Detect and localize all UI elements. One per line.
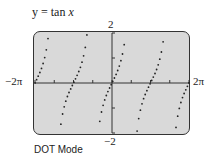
data-point <box>180 102 182 104</box>
data-point <box>118 65 120 67</box>
data-point <box>76 74 78 76</box>
data-point <box>187 85 189 87</box>
data-point <box>144 94 146 96</box>
data-point <box>44 57 46 59</box>
data-point <box>185 89 187 91</box>
data-point <box>34 82 36 84</box>
data-point <box>83 55 85 57</box>
data-point <box>188 82 190 84</box>
data-point <box>140 109 142 111</box>
data-point <box>47 38 49 40</box>
data-point <box>105 95 107 97</box>
data-point <box>159 58 161 60</box>
data-point <box>65 100 67 102</box>
data-point <box>41 68 43 70</box>
data-point <box>107 91 109 93</box>
data-point <box>39 72 41 74</box>
data-point <box>60 123 62 125</box>
data-point <box>45 49 47 51</box>
data-point <box>37 75 39 77</box>
data-point <box>138 118 140 120</box>
data-point <box>67 96 69 98</box>
data-point <box>86 34 88 36</box>
data-point <box>68 92 70 94</box>
data-point <box>73 81 75 83</box>
data-point <box>71 85 73 87</box>
data-point <box>110 84 112 86</box>
data-point <box>70 88 72 90</box>
data-point <box>114 77 116 79</box>
data-point <box>152 76 154 78</box>
data-point <box>141 103 143 105</box>
data-point <box>78 71 80 73</box>
data-point <box>80 66 82 68</box>
data-point <box>157 64 159 66</box>
data-point <box>115 74 117 76</box>
data-point <box>122 53 124 55</box>
data-point <box>120 60 122 62</box>
data-point <box>177 115 179 117</box>
data-point <box>136 130 138 132</box>
data-point <box>62 113 64 115</box>
plot-area <box>0 0 215 164</box>
data-point <box>104 99 106 101</box>
data-point <box>123 44 125 46</box>
data-point <box>99 120 101 122</box>
data-point <box>117 70 119 72</box>
data-point <box>42 63 44 65</box>
data-point <box>63 106 65 108</box>
data-point <box>81 61 83 63</box>
data-point <box>149 83 151 85</box>
data-point <box>101 111 103 113</box>
data-point <box>36 79 38 81</box>
mode-label: DOT Mode <box>34 144 83 155</box>
data-point <box>102 104 104 106</box>
data-point <box>154 73 156 75</box>
data-point <box>175 127 177 129</box>
data-point <box>161 51 163 53</box>
data-point <box>143 98 145 100</box>
data-point <box>109 87 111 89</box>
data-point <box>182 97 184 99</box>
data-point <box>162 41 164 43</box>
data-point <box>148 86 150 88</box>
data-point <box>112 80 114 82</box>
data-point <box>75 78 77 80</box>
data-point <box>178 108 180 110</box>
data-point <box>146 90 148 92</box>
data-point <box>183 93 185 95</box>
data-point <box>151 80 153 82</box>
data-point <box>84 47 86 49</box>
data-point <box>156 69 158 71</box>
